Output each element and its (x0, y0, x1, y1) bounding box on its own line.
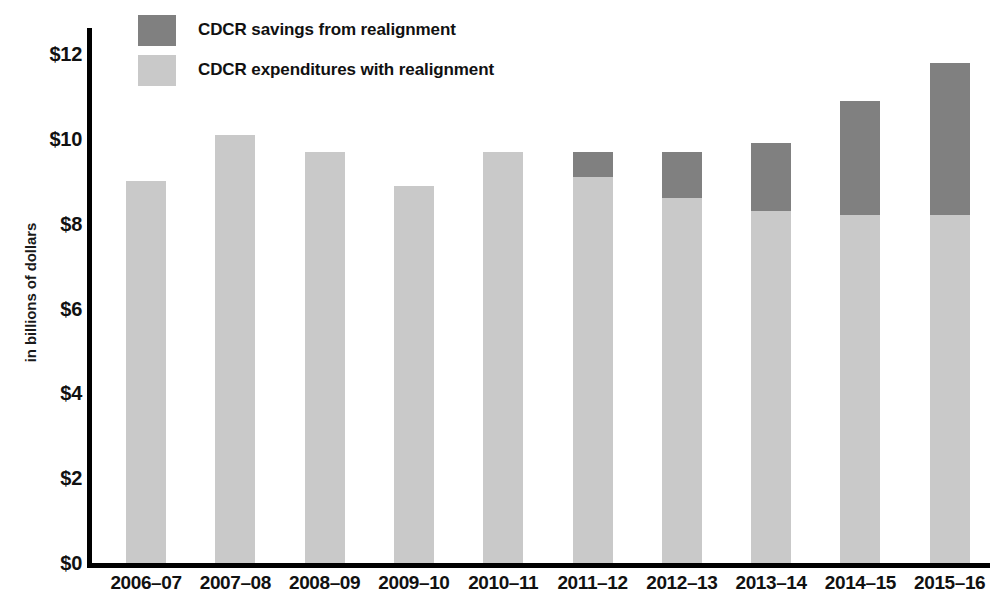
bar-segment-savings[interactable] (662, 152, 702, 199)
bar-segment-savings[interactable] (573, 152, 613, 177)
y-axis-tick-label: $6 (24, 297, 82, 320)
bar-group[interactable] (394, 28, 434, 563)
x-axis-tick-labels: 2006–072007–082008–092009–102010–112011–… (0, 572, 995, 603)
bar-segment-expenditures[interactable] (840, 215, 880, 563)
x-axis-tick-label: 2009–10 (378, 572, 449, 594)
y-axis-tick-label: $12 (24, 43, 82, 66)
x-axis-tick-label: 2008–09 (289, 572, 360, 594)
x-axis-tick-label: 2006–07 (110, 572, 181, 594)
x-axis-tick-label: 2013–14 (736, 572, 807, 594)
bar-segment-savings[interactable] (930, 63, 970, 216)
chart-legend: CDCR savings from realignmentCDCR expend… (138, 10, 494, 90)
bar-segment-expenditures[interactable] (215, 135, 255, 563)
x-axis-tick-label: 2007–08 (200, 572, 271, 594)
x-axis-line (87, 563, 990, 568)
y-axis-tick-label: $4 (24, 382, 82, 405)
y-axis-tick-label: $10 (24, 127, 82, 150)
bar-segment-expenditures[interactable] (751, 211, 791, 563)
legend-item[interactable]: CDCR expenditures with realignment (138, 50, 494, 90)
bar-segment-expenditures[interactable] (573, 177, 613, 563)
x-axis-tick-label: 2012–13 (646, 572, 717, 594)
y-axis-tick-label: $8 (24, 212, 82, 235)
y-axis-tick-labels: $0$2$4$6$8$10$12 (20, 0, 82, 603)
bar-group[interactable] (215, 28, 255, 563)
bar-segment-expenditures[interactable] (930, 215, 970, 563)
bar-segment-expenditures[interactable] (483, 152, 523, 563)
bar-segment-expenditures[interactable] (126, 181, 166, 563)
bar-segment-savings[interactable] (751, 143, 791, 211)
legend-label: CDCR savings from realignment (198, 20, 456, 40)
bar-segment-expenditures[interactable] (305, 152, 345, 563)
bar-group[interactable] (483, 28, 523, 563)
x-axis-tick-label: 2010–11 (468, 572, 538, 594)
bar-group[interactable] (662, 28, 702, 563)
bar-group[interactable] (840, 28, 880, 563)
bar-group[interactable] (305, 28, 345, 563)
bar-segment-expenditures[interactable] (394, 186, 434, 564)
bar-segment-savings[interactable] (840, 101, 880, 216)
plot-area (92, 28, 990, 563)
bar-group[interactable] (573, 28, 613, 563)
legend-swatch-expenditures (138, 55, 176, 86)
x-axis-tick-label: 2011–12 (557, 572, 627, 594)
legend-label: CDCR expenditures with realignment (198, 60, 494, 80)
y-axis-tick-label: $2 (24, 467, 82, 490)
bar-group[interactable] (126, 28, 166, 563)
bar-group[interactable] (751, 28, 791, 563)
bar-chart: in billions of dollars $0$2$4$6$8$10$12 … (0, 0, 995, 603)
legend-item[interactable]: CDCR savings from realignment (138, 10, 494, 50)
legend-swatch-savings (138, 15, 176, 46)
bar-group[interactable] (930, 28, 970, 563)
x-axis-tick-label: 2014–15 (825, 572, 896, 594)
bar-segment-expenditures[interactable] (662, 198, 702, 563)
x-axis-tick-label: 2015–16 (914, 572, 985, 594)
